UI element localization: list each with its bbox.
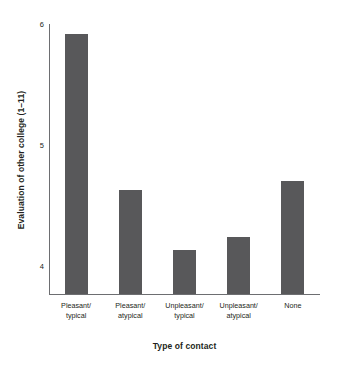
x-axis-title: Type of contact: [49, 341, 320, 351]
y-axis-title: Evaluation of other college (1–11): [14, 10, 28, 310]
x-tick-label-unpleasant-typical: Unpleasant/typical: [165, 301, 203, 320]
bar-chart-figure: Evaluation of other college (1–11) 4 5 6…: [0, 0, 346, 372]
x-axis-line: [49, 294, 320, 295]
y-tick-label-5: 5: [40, 140, 44, 149]
x-tick-label-unpleasant-atypical: Unpleasant/atypical: [220, 301, 258, 320]
plot-area: 4 5 6 Pleasant/typical Pleasant/atypical…: [49, 24, 320, 295]
bar-pleasant-typical: [65, 34, 88, 294]
y-tick-label-4: 4: [40, 261, 44, 270]
bar-pleasant-atypical: [119, 190, 142, 294]
x-tick-label-pleasant-atypical: Pleasant/atypical: [115, 301, 145, 320]
bar-unpleasant-atypical: [227, 237, 250, 294]
y-tick-label-6: 6: [40, 20, 44, 29]
x-tick-label-none: None: [284, 301, 301, 311]
bar-unpleasant-typical: [173, 250, 196, 293]
bar-none: [281, 181, 304, 293]
y-axis-line: [49, 24, 50, 295]
x-tick-label-pleasant-typical: Pleasant/typical: [61, 301, 91, 320]
